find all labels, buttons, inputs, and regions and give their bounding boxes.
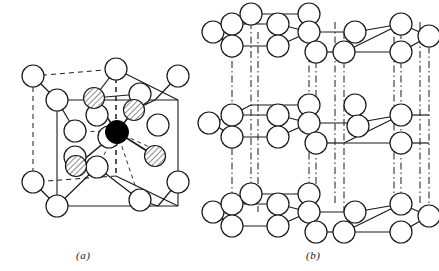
atom-hatched [124,100,145,121]
atom-open [147,114,169,136]
atom-open [105,58,127,80]
atom-open [298,112,320,134]
atom-open [267,13,289,35]
atom-open [221,126,243,148]
crystal-structure-figure [0,0,439,271]
caption-panel-a: (a) [76,249,90,261]
atom-open [344,94,366,116]
atom-open [344,21,366,43]
atom-open [129,189,151,211]
atom-open [267,126,289,148]
atom-open [167,65,189,87]
atom-open [64,120,86,142]
caption-panel-b: (b) [306,249,320,261]
atom-open [221,215,243,237]
atom-open [347,115,369,137]
atom-open [390,13,412,35]
atom-open [390,193,412,215]
atom-open [267,215,289,237]
atom-open [86,156,108,178]
atom-open [22,65,44,87]
atom-open [267,104,289,126]
atom-open [46,195,68,217]
atom-open [298,201,320,223]
atom-open [333,221,355,243]
atom-open [221,104,243,126]
atom-hatched [145,146,166,167]
atom-open [240,3,262,25]
atom-open [418,205,439,227]
atom-open [298,21,320,43]
atom-hatched [84,88,105,109]
atom-open [221,35,243,57]
atom-open [46,89,68,111]
atom-open [390,132,412,154]
atom-open [390,104,412,126]
atom-open [418,25,439,47]
atom-hatched [66,156,87,177]
atom-open [390,41,412,63]
atom-open [344,201,366,223]
atom-open [167,171,189,193]
atom-filled-center [106,121,129,144]
atom-open [198,112,220,134]
atom-open [305,132,327,154]
atom-open [333,41,355,63]
atom-open [22,171,44,193]
atom-open [267,193,289,215]
atom-open [240,183,262,205]
atom-open [267,35,289,57]
atom-open [390,221,412,243]
atom-open [305,221,327,243]
atom-open [305,41,327,63]
